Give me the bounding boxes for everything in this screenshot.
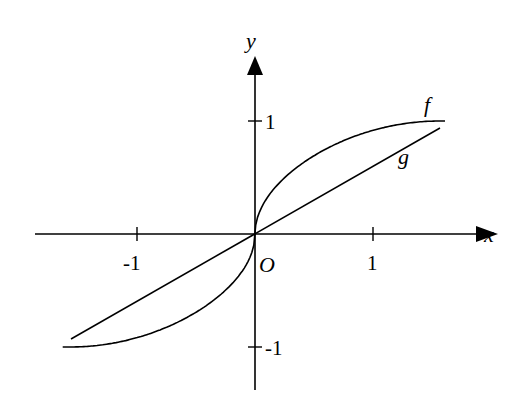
y-tick-label-1: 1 [265,110,276,134]
curve-f-label: f [424,92,433,117]
x-tick-label-1: 1 [367,251,378,275]
origin-label: O [259,252,275,277]
function-graph: y x O -1 1 1 -1 f g [0,0,518,412]
x-tick-label-neg1: -1 [123,251,141,275]
y-axis-arrow-icon [247,56,263,75]
curve-g-label: g [398,144,409,169]
y-tick-label-neg1: -1 [265,336,283,360]
y-axis-label: y [244,28,256,53]
x-axis-label: x [483,222,494,247]
